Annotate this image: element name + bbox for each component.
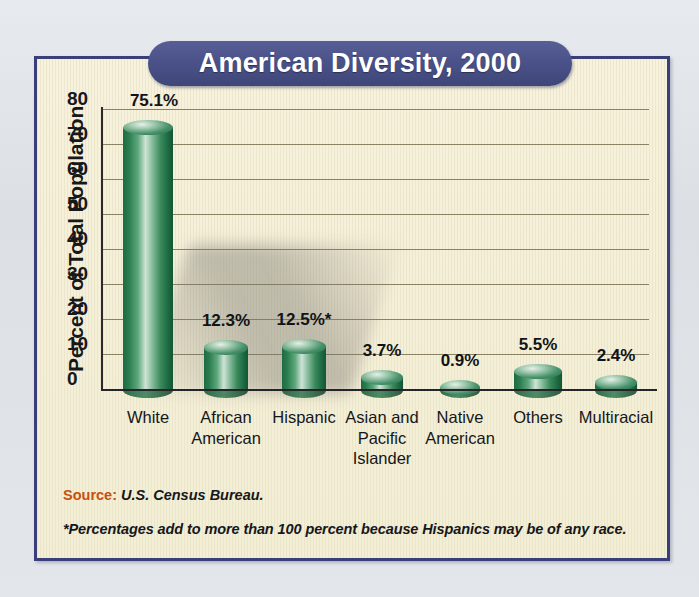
bar bbox=[440, 372, 480, 390]
bar bbox=[282, 332, 326, 391]
chart-title-banner: American Diversity, 2000 bbox=[148, 41, 572, 86]
bar-value-label: 75.1% bbox=[94, 91, 214, 111]
footnote-text: *Percentages add to more than 100 percen… bbox=[63, 521, 626, 537]
bar bbox=[595, 367, 637, 390]
bar-top-ellipse bbox=[361, 370, 403, 385]
bar bbox=[361, 363, 403, 391]
x-axis-category-label: Native American bbox=[417, 407, 503, 448]
bar-top-ellipse bbox=[595, 375, 637, 390]
bar bbox=[514, 356, 562, 390]
source-value: U.S. Census Bureau. bbox=[121, 487, 264, 503]
plot-area: Percent of Total Population 010203040506… bbox=[37, 59, 667, 558]
bar-body bbox=[123, 128, 173, 391]
bar bbox=[204, 332, 248, 390]
x-axis-category-label: Hispanic bbox=[261, 407, 347, 428]
bar-top-ellipse bbox=[440, 380, 480, 395]
source-label: Source: bbox=[63, 487, 117, 503]
bar-top-ellipse bbox=[204, 340, 248, 355]
bar bbox=[123, 113, 173, 391]
x-axis-category-label: Others bbox=[495, 407, 581, 428]
x-axis-line bbox=[101, 389, 657, 391]
x-axis-labels: WhiteAfrican AmericanHispanicAsian and P… bbox=[37, 395, 667, 495]
figure-frame: Percent of Total Population 010203040506… bbox=[34, 56, 670, 561]
x-axis-category-label: White bbox=[105, 407, 191, 428]
x-axis-category-label: Multiracial bbox=[573, 407, 659, 428]
source-note: Source:U.S. Census Bureau. bbox=[63, 487, 264, 503]
bar-value-label: 12.5%* bbox=[244, 310, 364, 330]
x-axis-category-label: Asian and Pacific Islander bbox=[339, 407, 425, 469]
x-axis-category-label: African American bbox=[183, 407, 269, 448]
page-title: American Diversity, 2000 bbox=[199, 48, 522, 79]
bar-value-label: 2.4% bbox=[556, 346, 676, 366]
bar-top-ellipse bbox=[514, 364, 562, 379]
